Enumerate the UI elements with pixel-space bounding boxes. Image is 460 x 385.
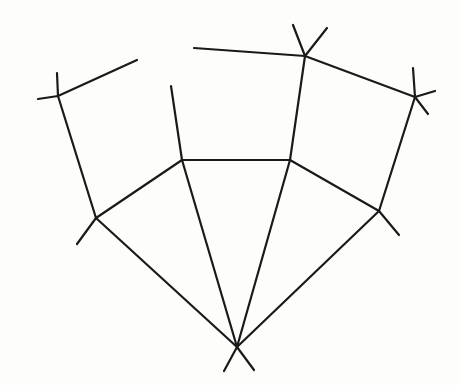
edge-stub-A-1 bbox=[57, 73, 58, 96]
graph-edges bbox=[58, 56, 415, 347]
edge-stub-H-13 bbox=[237, 347, 254, 370]
edge-stub-F-10 bbox=[415, 97, 428, 114]
edge-D-E bbox=[290, 56, 305, 160]
edge-stub-E-6 bbox=[305, 28, 327, 56]
edge-D-H bbox=[237, 160, 290, 347]
edge-G-H bbox=[237, 211, 379, 347]
edge-B-C bbox=[96, 160, 182, 218]
diagram-canvas bbox=[0, 0, 460, 385]
edge-stub-F-8 bbox=[413, 68, 415, 97]
edge-E-F bbox=[305, 56, 415, 97]
edge-stub-F-9 bbox=[415, 91, 435, 97]
edge-stub-A-0 bbox=[38, 96, 58, 99]
edge-stub-A-2 bbox=[58, 60, 137, 96]
planar-graph-diagram bbox=[0, 0, 460, 385]
edge-stub-C-4 bbox=[171, 86, 182, 160]
edge-D-G bbox=[290, 160, 379, 211]
edge-C-H bbox=[182, 160, 237, 347]
edge-stub-G-11 bbox=[379, 211, 399, 235]
edge-stub-B-3 bbox=[77, 218, 96, 244]
edge-B-H bbox=[96, 218, 237, 347]
edge-A-B bbox=[58, 96, 96, 218]
edge-stub-E-7 bbox=[194, 48, 305, 56]
graph-edge-stubs bbox=[38, 25, 435, 371]
edge-stub-H-12 bbox=[224, 347, 237, 371]
edge-stub-E-5 bbox=[293, 25, 305, 56]
edge-F-G bbox=[379, 97, 415, 211]
